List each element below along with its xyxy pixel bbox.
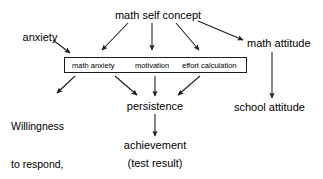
edge-msc-to-math-attitude: [198, 21, 243, 40]
edge-math-anxiety-to-persistence: [115, 76, 137, 95]
node-achievement: achievement: [115, 139, 195, 152]
path-diagram: math self concept anxiety math attitude …: [0, 0, 323, 179]
edge-msc-to-math-anxiety: [102, 23, 128, 50]
edge-effort-calculation-to-persistence: [178, 76, 200, 95]
node-math-attitude: math attitude: [247, 37, 319, 50]
construct-box-item-effort-calculation: effort calculation: [182, 61, 236, 70]
construct-box-item-motivation: motivation: [135, 61, 169, 70]
node-willingness-line-2: to respond,: [11, 158, 85, 171]
edge-msc-to-effort-calculation: [176, 23, 199, 50]
node-achievement-note: (test result): [115, 157, 195, 170]
node-willingness-line-1: Willingness: [11, 120, 85, 133]
edge-box-to-willingness: [57, 76, 75, 93]
node-school-attitude: school attitude: [234, 101, 320, 114]
construct-box: math anxiety motivation effort calculati…: [64, 57, 247, 73]
node-persistence: persistence: [115, 100, 195, 113]
construct-box-item-math-anxiety: math anxiety: [72, 61, 115, 70]
node-willingness: Willingness to respond, interact: [11, 94, 85, 179]
node-math-self-concept: math self concept: [112, 9, 204, 22]
node-anxiety: anxiety: [16, 31, 64, 44]
